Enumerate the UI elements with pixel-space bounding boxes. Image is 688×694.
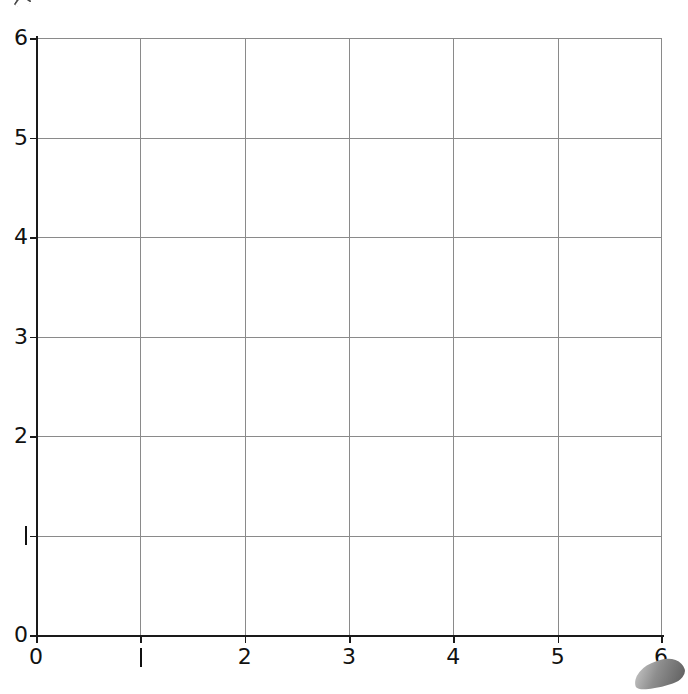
x-tick-label-3: 3 — [334, 646, 364, 668]
y-tick-label-3: 3 — [4, 326, 28, 348]
stray-pen-mark-icon — [13, 0, 31, 12]
y-tick-label-2: 2 — [4, 425, 28, 447]
y-tick-label-6: 6 — [4, 27, 28, 49]
stylus-tip-icon — [630, 654, 687, 694]
y-tick-2 — [30, 436, 37, 438]
x-tick-0 — [36, 636, 38, 643]
x-tick-3 — [349, 636, 351, 643]
x-tick-label-4: 4 — [438, 646, 468, 668]
y-tick-4 — [30, 237, 37, 239]
gridline-x-2 — [245, 38, 246, 635]
x-tick-4 — [453, 636, 455, 643]
gridline-x-5 — [558, 38, 559, 635]
x-tick-2 — [245, 636, 247, 643]
gridline-x-1 — [140, 38, 141, 635]
x-tick-label-2: 2 — [230, 646, 260, 668]
x-tick-6 — [661, 636, 663, 643]
y-tick-label-1 — [25, 526, 27, 545]
gridline-x-4 — [453, 38, 454, 635]
plot-area — [36, 38, 662, 635]
y-tick-5 — [30, 138, 37, 140]
x-tick-1 — [140, 636, 142, 643]
x-tick-5 — [558, 636, 560, 643]
y-tick-3 — [30, 337, 37, 339]
gridline-x-3 — [349, 38, 350, 635]
x-tick-label-1 — [140, 648, 142, 667]
x-tick-label-0: 0 — [21, 646, 51, 668]
y-tick-6 — [30, 38, 37, 40]
y-tick-label-0: 0 — [4, 624, 28, 646]
y-tick-label-4: 4 — [4, 226, 28, 248]
gridline-x-6 — [661, 38, 662, 635]
y-tick-1 — [30, 536, 37, 538]
x-tick-label-5: 5 — [543, 646, 573, 668]
y-tick-label-5: 5 — [4, 127, 28, 149]
